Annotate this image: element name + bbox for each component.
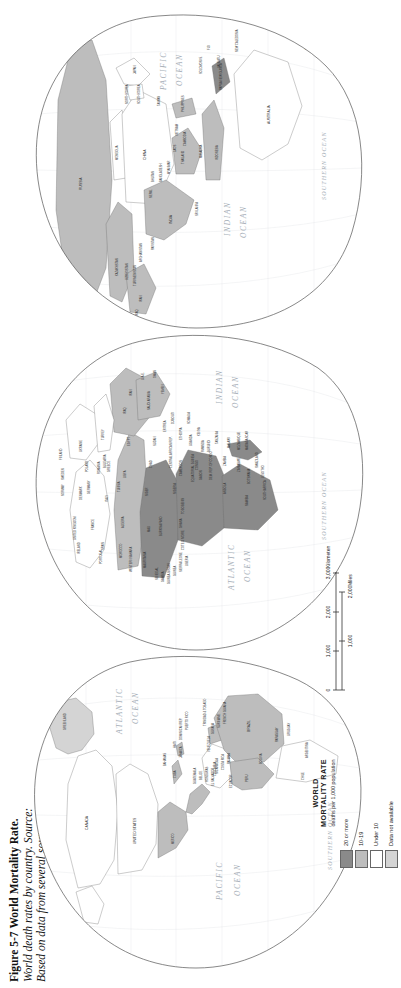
scale-mi-unit: Miles <box>347 574 353 586</box>
svg-text:ITALY: ITALY <box>105 495 109 502</box>
svg-text:GUINEA: GUINEA <box>173 565 177 576</box>
scale-km-2000: 2,000 <box>325 606 331 619</box>
svg-text:WESTERN SAHARA: WESTERN SAHARA <box>129 547 133 572</box>
svg-text:CENTRAL AFRICAN REP.: CENTRAL AFRICAN REP. <box>169 436 173 468</box>
svg-text:ALGERIA: ALGERIA <box>121 516 125 528</box>
svg-text:BENIN: BENIN <box>181 498 185 506</box>
svg-text:IRAQ: IRAQ <box>135 309 139 316</box>
svg-text:GABON: GABON <box>199 470 203 480</box>
svg-text:GAMBIA: GAMBIA <box>161 571 165 582</box>
svg-text:MOROCCO: MOROCCO <box>119 544 123 558</box>
svg-text:LESOTHO: LESOTHO <box>261 465 265 478</box>
svg-text:IRAN: IRAN <box>139 296 143 302</box>
svg-text:VIETNAM: VIETNAM <box>175 123 179 136</box>
svg-text:BRAZIL: BRAZIL <box>247 720 251 732</box>
svg-text:TAIWAN: TAIWAN <box>157 96 161 106</box>
svg-text:OMAN: OMAN <box>153 370 157 378</box>
svg-text:PANAMA: PANAMA <box>227 753 231 764</box>
svg-text:NEW ZEALAND: NEW ZEALAND <box>305 31 309 50</box>
legend-label-no-data: Data not available <box>388 801 394 846</box>
svg-text:PERU: PERU <box>245 774 249 782</box>
svg-text:UGANDA: UGANDA <box>189 434 193 446</box>
svg-text:COTE D'IVOIRE: COTE D'IVOIRE <box>181 530 185 550</box>
svg-text:UNITED KINGDOM: UNITED KINGDOM <box>73 516 77 540</box>
svg-text:FRENCH GUIANA: FRENCH GUIANA <box>223 702 227 724</box>
svg-text:ANGOLA: ANGOLA <box>223 483 227 494</box>
svg-text:OCEAN: OCEAN <box>131 691 140 724</box>
svg-text:RUSSIA: RUSSIA <box>79 177 83 190</box>
svg-text:MAURITANIA: MAURITANIA <box>143 551 147 568</box>
svg-text:CHINA: CHINA <box>143 149 147 160</box>
svg-text:GUATEMALA: GUATEMALA <box>193 767 197 784</box>
svg-text:OCEAN: OCEAN <box>231 375 240 408</box>
svg-text:SWAZILAND: SWAZILAND <box>255 452 259 468</box>
svg-text:VANUATU: VANUATU <box>217 55 221 68</box>
svg-text:BHUTAN: BHUTAN <box>151 171 155 182</box>
scale-km-3000: 3,000 <box>325 567 331 580</box>
svg-text:INDIA: INDIA <box>169 214 173 224</box>
svg-text:SPAIN: SPAIN <box>101 542 105 550</box>
svg-text:LAOS: LAOS <box>173 145 177 152</box>
svg-text:DOMINICAN REP.: DOMINICAN REP. <box>179 718 183 740</box>
legend-item: Data not available <box>385 718 398 868</box>
svg-text:FRANCE: FRANCE <box>91 519 95 530</box>
svg-text:TOGO: TOGO <box>181 506 185 514</box>
svg-text:IRELAND: IRELAND <box>77 542 81 554</box>
svg-text:CHILE: CHILE <box>301 772 305 780</box>
legend-swatch-under-10 <box>370 850 383 868</box>
svg-text:CAMEROON: CAMEROON <box>179 460 183 476</box>
svg-text:SOUTHERN OCEAN: SOUTHERN OCEAN <box>321 131 327 200</box>
svg-text:UKRAINE: UKRAINE <box>79 440 83 452</box>
ocean-label-indian-2: INDIAN <box>223 201 232 237</box>
svg-text:CUBA: CUBA <box>173 770 177 778</box>
legend-swatch-10-19 <box>355 850 368 868</box>
map-legend: WORLD MORTALITY RATE deaths per 1,000 po… <box>312 718 400 868</box>
svg-text:DJIBOUTI: DJIBOUTI <box>171 412 175 424</box>
legend-label-10-19: 10-19 <box>358 832 364 846</box>
svg-text:OCEAN: OCEAN <box>175 53 184 86</box>
ocean-label-indian: INDIAN <box>215 369 224 405</box>
svg-text:SOUTHERN OCEAN: SOUTHERN OCEAN <box>321 471 327 540</box>
svg-text:JAPAN: JAPAN <box>133 65 137 74</box>
ocean-label-pacific: PACIFIC <box>215 861 224 901</box>
svg-text:MALI: MALI <box>147 525 151 532</box>
svg-text:LIBYA: LIBYA <box>123 470 127 478</box>
svg-text:POLAND: POLAND <box>85 461 89 472</box>
legend-label-20-or-more: 20 or more <box>343 819 349 846</box>
svg-text:FIJI: FIJI <box>207 45 211 50</box>
svg-text:PAKISTAN: PAKISTAN <box>151 237 155 250</box>
legend-item: 20 or more <box>340 718 353 868</box>
svg-text:BURKINA FASO: BURKINA FASO <box>159 516 163 536</box>
figure-number: Figure 5-7 <box>8 931 20 982</box>
svg-text:DENMARK: DENMARK <box>79 486 83 500</box>
svg-text:SUDAN: SUDAN <box>153 437 157 446</box>
svg-text:MOZAMBIQUE: MOZAMBIQUE <box>237 431 241 450</box>
figure-page: Figure 5-7 World Mortality Rate. World d… <box>0 0 401 988</box>
svg-text:SAUDI ARABIA: SAUDI ARABIA <box>147 391 151 410</box>
svg-text:UZBEKISTAN: UZBEKISTAN <box>125 263 129 280</box>
svg-text:KENYA: KENYA <box>197 427 201 436</box>
svg-text:KAZAKHSTAN: KAZAKHSTAN <box>115 258 119 276</box>
svg-text:HAITI: HAITI <box>173 741 177 748</box>
svg-text:ECUADOR: ECUADOR <box>229 775 233 788</box>
svg-text:SOUTH KOREA: SOUTH KOREA <box>137 84 141 104</box>
legend-swatch-20-or-more <box>340 850 353 868</box>
svg-text:SWEDEN: SWEDEN <box>61 468 65 480</box>
svg-text:TURKEY: TURKEY <box>101 429 105 440</box>
svg-text:VENEZUELA: VENEZUELA <box>207 736 211 752</box>
figure-title: World Mortality Rate. <box>8 818 20 928</box>
scale-mi-1000: 1,000 <box>347 635 353 648</box>
legend-item: 10-19 <box>355 718 368 868</box>
ocean-label-atlantic-2: ATLANTIC <box>227 543 236 591</box>
svg-text:NORWAY: NORWAY <box>61 484 65 496</box>
svg-text:OCEAN: OCEAN <box>239 205 248 238</box>
svg-text:TURKMENISTAN: TURKMENISTAN <box>133 265 137 286</box>
svg-text:U.A.E.: U.A.E. <box>141 372 145 380</box>
svg-text:MYANMAR: MYANMAR <box>167 160 171 174</box>
svg-text:SENEGAL: SENEGAL <box>155 567 159 580</box>
svg-text:NORTH KOREA: NORTH KOREA <box>125 84 129 104</box>
svg-text:JAMAICA: JAMAICA <box>179 746 183 758</box>
svg-text:GREENLAND: GREENLAND <box>63 713 67 730</box>
svg-text:NIGER: NIGER <box>145 487 149 496</box>
svg-text:PORTUGAL: PORTUGAL <box>99 549 103 564</box>
